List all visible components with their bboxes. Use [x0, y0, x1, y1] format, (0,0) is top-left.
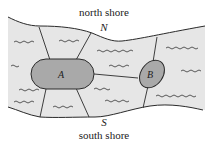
- north-node-label: N: [99, 21, 108, 33]
- south-node-label: S: [101, 116, 107, 128]
- konigsberg-bridges-diagram: north shore N A B S south shore: [0, 0, 215, 147]
- south-shore-label: south shore: [79, 129, 130, 141]
- island-b-label: B: [147, 69, 153, 80]
- north-shore-label: north shore: [79, 6, 129, 18]
- island-a-label: A: [57, 69, 65, 80]
